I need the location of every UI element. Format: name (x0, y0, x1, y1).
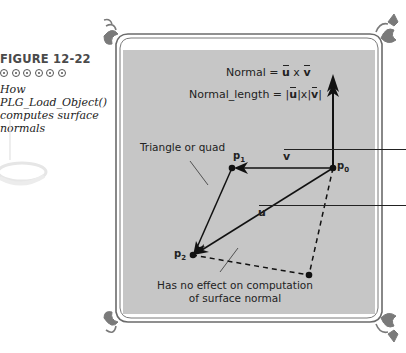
normal-length-equation: Normal_length = |u|x|v| (189, 88, 322, 101)
triangle-label: Triangle or quad (140, 141, 225, 153)
label-p2: p2 (174, 248, 186, 262)
point-p2 (190, 252, 197, 259)
point-p3 (306, 272, 313, 279)
corner-flourish-icon (104, 20, 118, 45)
label-vector-u: u (258, 206, 406, 219)
label-vector-v: v (283, 150, 406, 163)
point-p0 (330, 165, 337, 172)
normal-equation: Normal = u x v (226, 66, 311, 79)
point-p1 (229, 165, 236, 172)
label-p1: p1 (233, 150, 245, 164)
note-text: Has no effect on computation of surface … (142, 279, 328, 305)
